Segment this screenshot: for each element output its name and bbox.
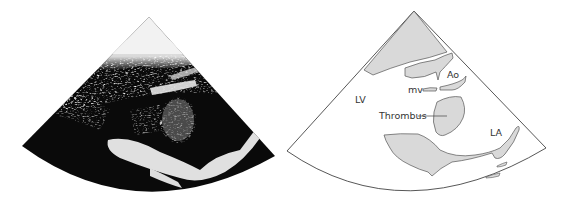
label-la: LA xyxy=(490,127,503,138)
figure-canvas: LV Ao mv Thrombus LA xyxy=(0,0,562,212)
label-thrombus: Thrombus xyxy=(378,110,427,121)
echocardiogram-image xyxy=(0,0,290,212)
label-mv: mv xyxy=(408,84,423,95)
mitral-leaflet-small xyxy=(423,88,437,91)
label-ao: Ao xyxy=(447,69,459,80)
label-lv: LV xyxy=(355,94,366,105)
schematic-diagram: LV Ao mv Thrombus LA xyxy=(287,11,546,191)
